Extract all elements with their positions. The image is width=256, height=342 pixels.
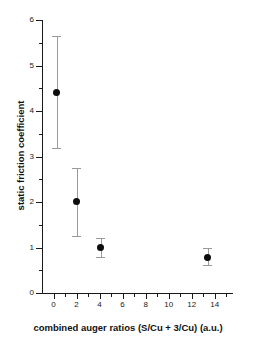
x-tick-major <box>215 294 216 299</box>
x-tick-minor <box>111 294 112 297</box>
y-tick-minor <box>39 225 43 226</box>
y-tick-minor <box>39 134 43 135</box>
x-tick-minor <box>134 294 135 297</box>
error-bar-cap-upper <box>52 36 61 37</box>
x-tick-major <box>169 294 170 299</box>
x-tick-label: 8 <box>136 301 156 309</box>
y-tick-minor <box>39 179 43 180</box>
y-tick-minor <box>39 270 43 271</box>
x-tick-minor <box>88 294 89 297</box>
y-tick-label: 6 <box>16 16 34 24</box>
chart-figure: 0123456 02468101214 static friction coef… <box>0 0 256 342</box>
x-tick-label: 6 <box>113 301 133 309</box>
error-bar-cap-upper <box>203 248 212 249</box>
x-tick-label: 0 <box>44 301 64 309</box>
x-tick-label: 4 <box>90 301 110 309</box>
y-tick-major <box>36 202 43 203</box>
x-tick-minor <box>65 294 66 297</box>
x-tick-major <box>54 294 55 299</box>
error-bar-cap-lower <box>52 148 61 149</box>
y-tick-major <box>36 111 43 112</box>
x-tick-major <box>192 294 193 299</box>
error-bar-cap-lower <box>96 257 105 258</box>
x-tick-major <box>77 294 78 299</box>
y-tick-major <box>36 248 43 249</box>
x-axis-title: combined auger ratios (S/Cu + 3/Cu) (a.u… <box>0 322 256 333</box>
y-axis-title: static friction coefficient <box>15 66 26 246</box>
y-tick-major <box>36 293 43 294</box>
data-point-marker <box>73 198 80 205</box>
x-tick-major <box>123 294 124 299</box>
x-tick-minor <box>226 294 227 297</box>
data-point-marker <box>204 254 211 261</box>
y-tick-minor <box>39 43 43 44</box>
x-tick-minor <box>180 294 181 297</box>
x-tick-label: 2 <box>67 301 87 309</box>
x-tick-label: 12 <box>182 301 202 309</box>
x-tick-major <box>146 294 147 299</box>
error-bar-cap-lower <box>72 236 81 237</box>
y-tick-major <box>36 20 43 21</box>
x-tick-label: 14 <box>205 301 225 309</box>
y-tick-label: 0 <box>16 289 34 297</box>
error-bar-cap-lower <box>203 265 212 266</box>
x-tick-major <box>100 294 101 299</box>
x-tick-label: 10 <box>159 301 179 309</box>
error-bar-cap-upper <box>72 168 81 169</box>
x-tick-minor <box>203 294 204 297</box>
plot-area <box>42 20 232 293</box>
y-tick-minor <box>39 88 43 89</box>
error-bar-cap-upper <box>96 238 105 239</box>
x-tick-minor <box>157 294 158 297</box>
y-tick-major <box>36 66 43 67</box>
y-tick-major <box>36 157 43 158</box>
x-axis-line <box>42 293 233 294</box>
